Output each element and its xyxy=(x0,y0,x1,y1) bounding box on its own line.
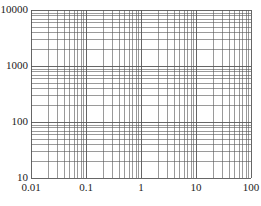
y-tick-label: 10000 xyxy=(0,4,28,15)
x-tick-label: 0.1 xyxy=(66,182,106,193)
y-tick-label: 100 xyxy=(0,116,28,127)
plot-area xyxy=(0,0,261,206)
x-tick-label: 0.01 xyxy=(11,182,51,193)
y-tick-label: 1000 xyxy=(0,60,28,71)
x-tick-label: 10 xyxy=(176,182,216,193)
x-tick-label: 1 xyxy=(121,182,161,193)
x-tick-label: 100 xyxy=(231,182,261,193)
